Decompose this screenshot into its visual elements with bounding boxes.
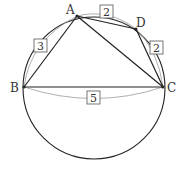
- segment-ab: [24, 16, 77, 87]
- circumcircle: [23, 17, 165, 159]
- label-a: A: [65, 3, 75, 17]
- label-b: B: [10, 81, 19, 95]
- vertex-c: [162, 86, 165, 89]
- vertex-b: [23, 86, 26, 89]
- cyclic-quadrilateral-diagram: A B C D 3 2 2 5: [0, 0, 184, 177]
- label-d: D: [136, 16, 146, 30]
- vertex-a: [76, 15, 79, 18]
- length-dc: 2: [153, 42, 160, 55]
- length-box-dc: 2: [150, 41, 163, 55]
- length-ad: 2: [103, 6, 110, 19]
- length-box-ad: 2: [100, 5, 113, 19]
- length-ab: 3: [37, 40, 44, 53]
- length-bc: 5: [90, 92, 97, 105]
- length-box-bc: 5: [87, 91, 100, 105]
- label-c: C: [167, 81, 176, 95]
- length-box-ab: 3: [34, 39, 47, 53]
